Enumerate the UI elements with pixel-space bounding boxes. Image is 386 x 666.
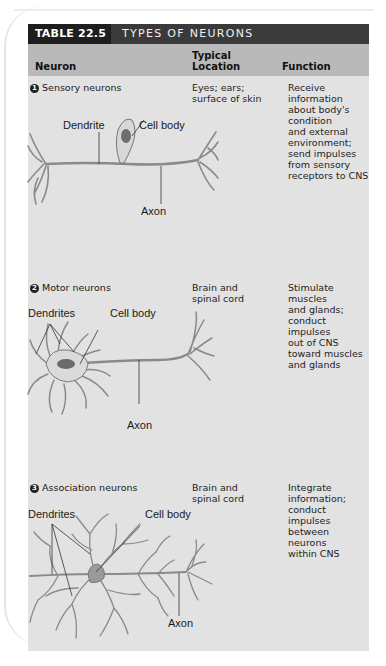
sensory-neuron-illustration — [28, 94, 218, 224]
function-line: Stimulate muscles — [288, 282, 369, 304]
location-line: spinal cord — [192, 493, 244, 504]
motor-neuron-illustration — [28, 304, 218, 424]
function-line: toward muscles — [288, 348, 369, 359]
function-line: and external — [288, 126, 368, 137]
function-cell: Stimulate muscles and glands; conduct im… — [288, 282, 369, 370]
function-line: receptors to CNS — [288, 170, 368, 181]
function-line: and glands — [288, 359, 369, 370]
function-line: conduct impulses — [288, 315, 369, 337]
function-line: Integrate — [288, 482, 369, 493]
function-line: Receive — [288, 82, 368, 93]
association-neuron-illustration — [28, 504, 218, 654]
function-line: condition — [288, 115, 368, 126]
cell-body-pointer — [96, 526, 140, 572]
label-cell-body: Cell body — [145, 508, 191, 520]
cell-body-pointer — [80, 330, 98, 364]
number-badge-icon: 1 — [30, 84, 39, 93]
dendrites-pointers — [36, 324, 74, 354]
function-line: between neurons — [288, 526, 369, 548]
neuron-name: 2Motor neurons — [30, 282, 111, 293]
label-cell-body: Cell body — [110, 307, 156, 319]
label-axon: Axon — [168, 617, 193, 629]
label-cell-body: Cell body — [139, 119, 185, 131]
function-line: out of CNS — [288, 337, 369, 348]
function-line: within CNS — [288, 548, 369, 559]
column-header-location-line2: Location — [192, 61, 240, 72]
neuron-name-text: Association neurons — [42, 482, 137, 493]
column-header-row: Neuron Typical Location Function — [28, 44, 369, 76]
location-line: Brain and — [192, 482, 244, 493]
column-header-neuron: Neuron — [35, 61, 76, 72]
function-line: information; — [288, 493, 369, 504]
label-axon: Axon — [141, 205, 166, 217]
neuron-name-text: Sensory neurons — [42, 82, 122, 93]
function-line: and glands; — [288, 304, 369, 315]
location-cell: Brain and spinal cord — [192, 482, 244, 504]
number-badge-icon: 2 — [30, 284, 39, 293]
label-dendrites: Dendrites — [28, 508, 75, 520]
function-line: send impulses — [288, 148, 368, 159]
table-number: TABLE 22.5 — [28, 24, 111, 44]
neuron-types-table: TABLE 22.5 TYPES OF NEURONS Neuron Typic… — [28, 24, 369, 651]
neuron-name: 1Sensory neurons — [30, 82, 122, 93]
table-title: TYPES OF NEURONS — [122, 24, 254, 44]
column-header-location-line1: Typical — [192, 50, 231, 61]
function-line: environment; — [288, 137, 368, 148]
location-line: spinal cord — [192, 293, 244, 304]
label-axon: Axon — [127, 419, 152, 431]
function-line: conduct impulses — [288, 504, 369, 526]
number-badge-icon: 3 — [30, 484, 39, 493]
location-line: Eyes; ears; — [192, 82, 261, 93]
location-line: Brain and — [192, 282, 244, 293]
location-cell: Brain and spinal cord — [192, 282, 244, 304]
table-title-bar: TABLE 22.5 TYPES OF NEURONS — [28, 24, 369, 44]
page-edge-line — [14, 9, 374, 11]
function-cell: Integrate information; conduct impulses … — [288, 482, 369, 559]
function-line: about body's — [288, 104, 368, 115]
function-line: from sensory — [288, 159, 368, 170]
label-dendrites: Dendrites — [28, 307, 75, 319]
neuron-name: 3Association neurons — [30, 482, 137, 493]
neuron-name-text: Motor neurons — [42, 282, 111, 293]
function-cell: Receive information about body's conditi… — [288, 82, 368, 181]
label-dendrite: Dendrite — [63, 119, 105, 131]
column-header-function: Function — [282, 61, 331, 72]
function-line: information — [288, 93, 368, 104]
